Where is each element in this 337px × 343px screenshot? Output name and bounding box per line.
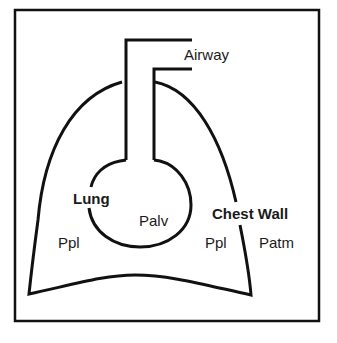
chest-wall <box>29 82 251 295</box>
palv-label: Palv <box>139 212 169 229</box>
lung-chest-wall-diagram: Airway Lung Palv Chest Wall Ppl Ppl Patm <box>0 0 337 343</box>
airway-left-wall <box>126 40 192 160</box>
airway-label: Airway <box>184 46 230 63</box>
chest-wall-right-upper <box>155 82 236 202</box>
chest-wall-label: Chest Wall <box>212 205 288 222</box>
ppl-left-label: Ppl <box>58 234 80 251</box>
airway-tube <box>126 40 192 160</box>
chest-wall-left-and-diaphragm <box>29 82 251 295</box>
alveolus-upper-arc <box>91 160 126 187</box>
diagram-frame <box>15 10 319 321</box>
lung-label: Lung <box>73 190 110 207</box>
patm-label: Patm <box>259 234 294 251</box>
ppl-right-label: Ppl <box>205 234 227 251</box>
